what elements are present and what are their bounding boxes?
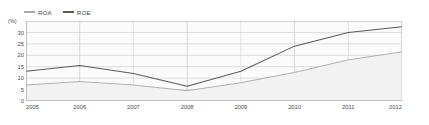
x-tick-label: 2010 [288, 104, 301, 111]
legend-label-roa: ROA [38, 9, 52, 16]
y-tick-label: 25 [2, 41, 24, 47]
x-tick-label: 2008 [181, 104, 194, 111]
line-swatch-icon [24, 11, 35, 13]
line-swatch-icon [63, 11, 74, 13]
y-tick-label: 15 [2, 64, 24, 70]
x-tick-label: 2011 [342, 104, 354, 111]
plot-area [26, 21, 402, 101]
y-tick-label: 10 [2, 75, 24, 81]
legend-item-roa[interactable]: ROA [24, 9, 52, 16]
x-tick-label: 2007 [127, 104, 140, 111]
x-tick-label: 2006 [73, 104, 86, 111]
x-tick-label: 2005 [26, 104, 39, 111]
chart-legend: ROA ROE [24, 6, 91, 18]
x-tick-label: 2012 [389, 104, 402, 111]
legend-item-roe[interactable]: ROE [63, 9, 91, 16]
x-tick-label: 2009 [234, 104, 247, 111]
line-chart: ROA ROE (%) 30 25 20 15 10 5 0 2005 2006… [0, 0, 429, 125]
y-tick-label: 5 [2, 87, 24, 93]
y-axis-unit-label: (%) [8, 18, 17, 24]
y-tick-label: 0 [2, 98, 24, 104]
y-tick-label: 20 [2, 52, 24, 58]
legend-label-roe: ROE [77, 9, 91, 16]
plot-svg [26, 21, 402, 101]
y-tick-label: 30 [2, 30, 24, 36]
